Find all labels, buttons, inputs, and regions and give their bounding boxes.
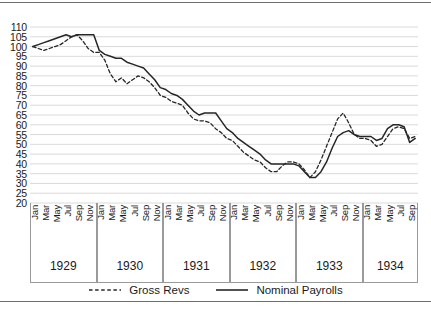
x-axis-month-sep-1933: Sep [340, 205, 350, 221]
x-axis-year-label-1934: 1934 [364, 260, 417, 273]
x-axis-year-label-1929: 1929 [31, 260, 96, 273]
x-axis-month-jan-1934: Jan [362, 205, 372, 220]
x-axis-year-group-1930: JanMarMayJulSepNov1930 [97, 203, 164, 283]
x-axis-month-jul-1934: Jul [396, 205, 406, 217]
x-axis-month-nov-1933: Nov [351, 205, 361, 221]
x-axis-month-mar-1934: Mar [373, 205, 383, 221]
x-axis-year-label-1931: 1931 [164, 260, 229, 273]
x-axis-month-labels: JanMarMayJulSepNov [98, 203, 163, 256]
legend-item-gross-revs: Gross Revs [88, 284, 189, 296]
x-axis-month-jul-1931: Jul [196, 205, 206, 217]
x-axis-month-mar-1929: Mar [41, 205, 51, 221]
x-axis-month-may-1932: May [251, 205, 261, 222]
x-axis-month-labels: JanMarMayJulSepNov [231, 203, 296, 256]
x-axis-year-group-1934: JanMarMayJulSep1934 [363, 203, 418, 283]
legend-label-nominal-payrolls: Nominal Payrolls [256, 284, 342, 296]
solid-line-icon [215, 285, 249, 295]
x-axis: JanMarMayJulSepNov1929JanMarMayJulSepNov… [30, 203, 418, 283]
x-axis-month-jul-1933: Jul [329, 205, 339, 217]
top-divider-rule [0, 2, 431, 3]
legend-label-gross-revs: Gross Revs [129, 284, 189, 296]
x-axis-month-labels: JanMarMayJulSepNov [31, 203, 96, 256]
x-axis-month-labels: JanMarMayJulSepNov [164, 203, 229, 256]
x-axis-year-group-1931: JanMarMayJulSepNov1931 [163, 203, 230, 283]
plot-area [0, 14, 431, 214]
bottom-divider-rule [0, 301, 431, 302]
gridlines [30, 27, 418, 203]
x-axis-year-label-1933: 1933 [297, 260, 362, 273]
x-axis-month-nov-1929: Nov [85, 205, 95, 221]
chart-legend: Gross Revs Nominal Payrolls [0, 281, 431, 299]
x-axis-month-nov-1932: Nov [285, 205, 295, 221]
x-axis-year-label-1930: 1930 [98, 260, 163, 273]
x-axis-month-labels: JanMarMayJulSepNov [297, 203, 362, 256]
x-axis-month-jul-1930: Jul [130, 205, 140, 217]
x-axis-month-sep-1932: Sep [274, 205, 284, 221]
x-axis-month-may-1933: May [318, 205, 328, 222]
x-axis-month-labels: JanMarMayJulSep [364, 203, 417, 256]
x-axis-month-mar-1930: Mar [107, 205, 117, 221]
x-axis-month-may-1934: May [385, 205, 395, 222]
x-axis-month-mar-1933: Mar [307, 205, 317, 221]
x-axis-year-group-1933: JanMarMayJulSepNov1933 [296, 203, 363, 283]
x-axis-month-sep-1929: Sep [74, 205, 84, 221]
x-axis-month-jul-1929: Jul [63, 205, 73, 217]
x-axis-month-sep-1931: Sep [207, 205, 217, 221]
plot-svg [0, 14, 431, 214]
dashed-line-icon [88, 285, 122, 295]
x-axis-month-jan-1931: Jan [163, 205, 173, 220]
x-axis-month-mar-1931: Mar [174, 205, 184, 221]
x-axis-month-sep-1930: Sep [141, 205, 151, 221]
x-axis-month-jan-1932: Jan [229, 205, 239, 220]
x-axis-month-jan-1933: Jan [296, 205, 306, 220]
x-axis-month-jul-1932: Jul [263, 205, 273, 217]
legend-item-nominal-payrolls: Nominal Payrolls [215, 284, 342, 296]
x-axis-month-may-1931: May [185, 205, 195, 222]
x-axis-month-mar-1932: Mar [240, 205, 250, 221]
x-axis-month-jan-1930: Jan [96, 205, 106, 220]
x-axis-month-jan-1929: Jan [30, 205, 40, 220]
x-axis-month-may-1929: May [52, 205, 62, 222]
x-axis-month-nov-1930: Nov [152, 205, 162, 221]
x-axis-month-nov-1931: Nov [218, 205, 228, 221]
x-axis-year-group-1932: JanMarMayJulSepNov1932 [230, 203, 297, 283]
x-axis-month-may-1930: May [118, 205, 128, 222]
x-axis-year-label-1932: 1932 [231, 260, 296, 273]
x-axis-year-group-1929: JanMarMayJulSepNov1929 [30, 203, 97, 283]
x-axis-month-sep-1934: Sep [407, 205, 417, 221]
chart-figure: 1101051009590858075706560555045403530252… [0, 0, 431, 310]
